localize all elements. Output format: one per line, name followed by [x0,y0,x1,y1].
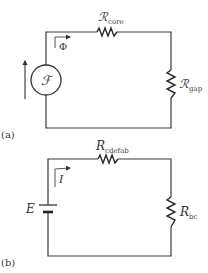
reluctance-gap-label: ℛgap [179,77,203,93]
wire-b [48,159,171,256]
flux-label: Φ [59,41,67,52]
panel-label-a: (a) [1,129,15,140]
reluctance-core-label: ℛcore [98,10,124,26]
source-e-label: E [25,202,35,216]
panel-label-b: (b) [1,257,15,268]
resistor-cdefab-symbol [98,155,118,163]
reluctance-gap-symbol [167,70,175,98]
resistor-cdefab-label: Rcdefab [95,139,129,155]
current-i-label: I [58,173,64,186]
resistor-bc-symbol [167,197,175,227]
reluctance-core-symbol [97,28,117,36]
magnetic-electric-circuit-analogy: ℛcore ℛgap ℱ Φ (a) Rcdefab Rbc E I (b) [0,0,208,273]
resistor-bc-label: Rbc [179,205,198,221]
electric-circuit [39,155,175,256]
